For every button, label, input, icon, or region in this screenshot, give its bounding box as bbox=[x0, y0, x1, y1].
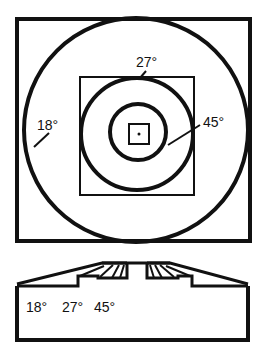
label-45-top: 45° bbox=[203, 114, 224, 130]
diagram-canvas: 18° 27° 45° 18° 27° 45° bbox=[0, 0, 265, 357]
rib-left-4 bbox=[120, 265, 124, 278]
center-dot bbox=[138, 133, 141, 136]
label-45-section: 45° bbox=[94, 299, 115, 315]
leader-18 bbox=[34, 133, 49, 147]
label-27-top: 27° bbox=[136, 54, 157, 70]
rib-left-3 bbox=[112, 265, 119, 278]
label-18-section: 18° bbox=[26, 299, 47, 315]
label-18-top: 18° bbox=[37, 117, 58, 133]
middle-ring-27 bbox=[81, 78, 193, 190]
rib-right-4 bbox=[150, 265, 154, 278]
label-27-section: 27° bbox=[62, 299, 83, 315]
leader-45 bbox=[168, 125, 200, 145]
cross-section bbox=[17, 263, 248, 340]
inner-ring-45 bbox=[110, 104, 166, 160]
cross-section-body bbox=[17, 286, 248, 340]
